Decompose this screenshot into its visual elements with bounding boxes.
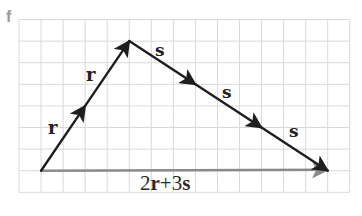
vector-label-r2: r: [86, 64, 96, 85]
vector-label-s3: s: [289, 121, 299, 141]
vector-label-s1: s: [155, 40, 165, 60]
vector-label-s2: s: [222, 82, 232, 102]
vector-diagram: f r r s s s 2r+3s: [0, 0, 362, 216]
resultant-label: 2r+3s: [140, 171, 190, 195]
resultant-label-coef-r: 2: [140, 171, 151, 195]
vector-label-r1: r: [48, 117, 58, 138]
figure-label: f: [6, 8, 12, 25]
resultant-label-plus-3: +3: [160, 171, 182, 195]
resultant-label-r: r: [151, 171, 160, 195]
grid: [19, 20, 350, 193]
resultant-label-s: s: [182, 171, 190, 195]
